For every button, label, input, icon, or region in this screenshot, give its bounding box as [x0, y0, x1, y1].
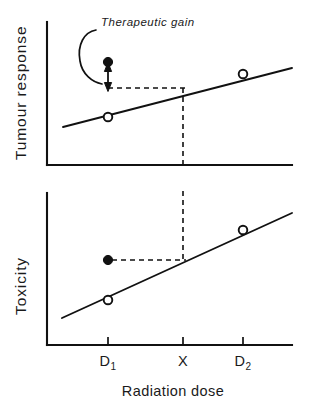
tumour-response-trend-line: [63, 68, 292, 127]
x-tick-label-x: X: [178, 353, 188, 369]
marker-filled-tumour-response: [103, 57, 112, 66]
therapeutic-gain-label: Therapeutic gain: [101, 16, 195, 28]
top-panel-y-axis-title: Tumour response: [12, 26, 29, 160]
x-axis-title: Radiation dose: [122, 383, 224, 399]
marker-open-d2-tumour-response: [239, 70, 248, 79]
radiotherapy-therapeutic-gain-figure: Therapeutic gain Tumour response: [0, 0, 312, 413]
x-tick-label-d2: D2: [235, 353, 252, 372]
marker-filled-toxicity: [103, 255, 112, 264]
marker-open-d2-toxicity: [239, 226, 248, 235]
toxicity-trend-line: [62, 213, 292, 318]
marker-open-d1-toxicity: [104, 296, 113, 305]
arrow-head-down: [104, 83, 111, 92]
tumour-response-panel: Therapeutic gain Tumour response: [12, 16, 292, 167]
toxicity-panel: D1 X D2 Toxicity Radiation dose: [12, 191, 292, 399]
bottom-panel-y-axis-title: Toxicity: [12, 257, 29, 315]
x-tick-label-d1: D1: [100, 353, 117, 372]
marker-open-d1-tumour-response: [104, 113, 113, 122]
figure-canvas: Therapeutic gain Tumour response: [0, 0, 312, 413]
therapeutic-gain-leader-line: [79, 30, 102, 84]
